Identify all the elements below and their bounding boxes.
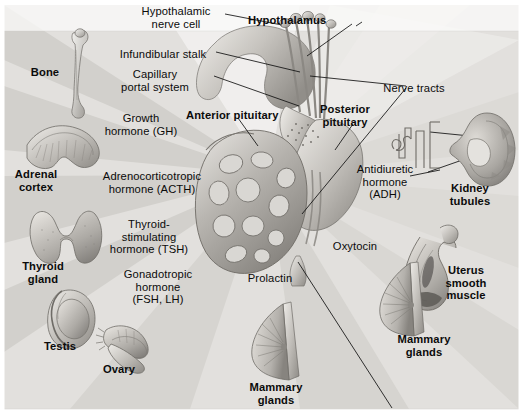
organ-label-thyroid-gland: Thyroid gland — [22, 260, 64, 285]
structure-label-infundibular-stalk: Infundibular stalk — [120, 48, 206, 61]
structure-label-hypothalamus: Hypothalamus — [248, 14, 326, 27]
structure-label-nerve-tracts: Nerve tracts — [383, 82, 445, 95]
organ-label-uterus-smooth-muscle: Uterus smooth muscle — [446, 264, 487, 302]
hormone-label-adh: Antidiuretic hormone (ADH) — [357, 163, 414, 201]
hormone-label-gonadotropic-hormone: Gonadotropic hormone (FSH, LH) — [124, 268, 192, 306]
organ-label-adrenal-cortex: Adrenal cortex — [15, 168, 57, 193]
structure-label-capillary-portal-system: Capillary portal system — [121, 68, 189, 93]
structure-label-anterior-pituitary: Anterior pituitary — [186, 109, 279, 122]
endocrine-diagram-figure: Hypothalamic nerve cellHypothalamusInfun… — [0, 0, 523, 418]
hormone-label-growth-hormone: Growth hormone (GH) — [105, 112, 178, 137]
organ-label-testis: Testis — [44, 340, 76, 353]
hormone-label-tsh: Thyroid- stimulating hormone (TSH) — [110, 218, 188, 256]
organ-label-bone: Bone — [31, 66, 59, 79]
hormone-label-prolactin: Prolactin — [248, 272, 292, 285]
organ-label-mammary-glands-left: Mammary glands — [250, 381, 303, 406]
structure-label-hypothalamic-nerve-cell: Hypothalamic nerve cell — [142, 5, 211, 30]
organ-label-kidney-tubules: Kidney tubules — [450, 182, 490, 207]
structure-label-posterior-pituitary: Posterior pituitary — [320, 103, 370, 128]
organ-label-ovary: Ovary — [103, 363, 135, 376]
hormone-label-oxytocin: Oxytocin — [333, 240, 377, 253]
organ-label-mammary-glands-right: Mammary glands — [398, 333, 451, 358]
hormone-label-acth: Adrenocorticotropic hormone (ACTH) — [103, 170, 201, 195]
